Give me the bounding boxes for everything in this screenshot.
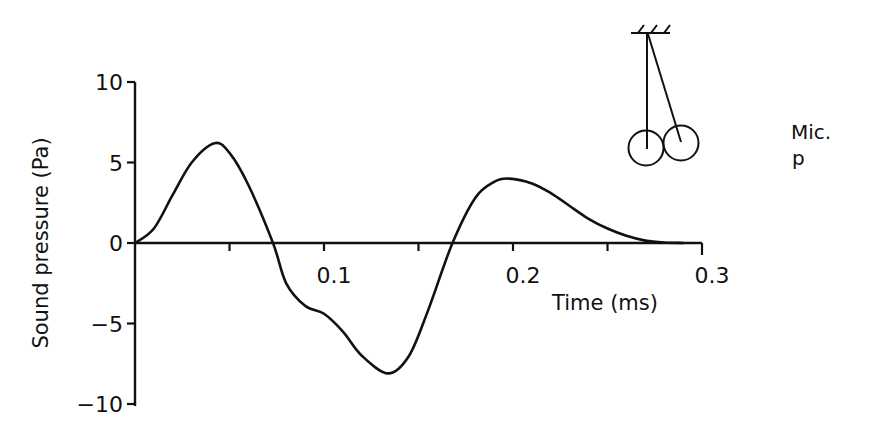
y-tick-label: 0 [109, 231, 123, 256]
mic-pressure-symbol: p [792, 148, 805, 168]
x-axis-label: Time (ms) [551, 291, 658, 315]
y-axis-label: Sound pressure (Pa) [29, 137, 53, 348]
mic-label: Mic. [791, 122, 831, 142]
sound-pressure-curve [135, 143, 683, 374]
y-tick-label: −10 [77, 392, 123, 417]
support-hatch [664, 25, 670, 33]
support-hatch [651, 25, 657, 33]
y-tick-label: −5 [91, 312, 123, 337]
support-hatch [638, 25, 644, 33]
x-tick-label: 0.2 [506, 263, 541, 288]
x-tick-label: 0.3 [695, 263, 730, 288]
chart-canvas: 1050−5−100.10.20.3 Sound pressure (Pa) T… [0, 0, 872, 439]
x-tick-label: 0.1 [317, 263, 352, 288]
pendulum-sphere-displaced [664, 126, 699, 161]
pendulum-illustration [629, 25, 699, 166]
y-tick-label: 10 [95, 70, 123, 95]
y-tick-label: 5 [109, 151, 123, 176]
